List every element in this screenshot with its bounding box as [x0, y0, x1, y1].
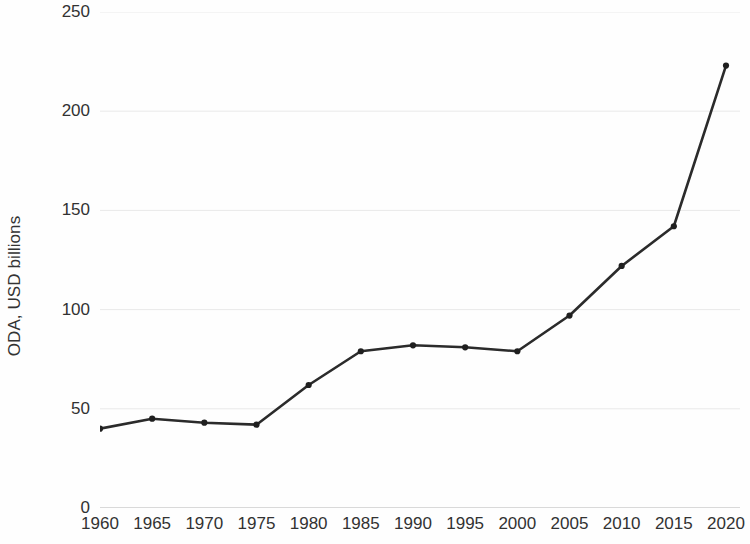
- y-axis-tick-label: 250: [32, 2, 90, 22]
- data-point-marker: [566, 312, 572, 318]
- x-axis-tick-label: 1960: [81, 514, 119, 534]
- series-line-oda: [100, 66, 726, 429]
- y-axis-title: ODA, USD billions: [0, 0, 30, 544]
- data-point-marker: [149, 416, 155, 422]
- series-markers-oda: [100, 62, 729, 431]
- chart-figure: ODA, USD billions 050100150200250 196019…: [0, 0, 750, 544]
- data-point-marker: [253, 422, 259, 428]
- plot-area: [100, 12, 740, 508]
- data-point-marker: [306, 382, 312, 388]
- x-axis-tick-label: 2000: [498, 514, 536, 534]
- x-axis-tick-label: 1980: [290, 514, 328, 534]
- x-axis-tick-label: 2020: [707, 514, 745, 534]
- data-point-marker: [514, 348, 520, 354]
- y-axis-tick-label: 50: [32, 399, 90, 419]
- x-axis-tick-label: 2005: [551, 514, 589, 534]
- y-axis-tick-label: 100: [32, 300, 90, 320]
- x-axis-tick-label: 1995: [446, 514, 484, 534]
- data-point-marker: [201, 420, 207, 426]
- y-axis-tick-label: 200: [32, 101, 90, 121]
- data-point-marker: [410, 342, 416, 348]
- x-axis-tick-label: 1985: [342, 514, 380, 534]
- y-axis-tick-labels: 050100150200250: [32, 0, 90, 544]
- data-point-marker: [100, 426, 103, 432]
- x-axis-tick-label: 1965: [133, 514, 171, 534]
- gridlines: [100, 12, 740, 409]
- y-axis-title-text: ODA, USD billions: [5, 216, 25, 357]
- x-axis-tick-label: 1990: [394, 514, 432, 534]
- x-axis-tick-labels: 1960196519701975198019851990199520002005…: [100, 512, 740, 544]
- data-point-marker: [358, 348, 364, 354]
- data-point-marker: [462, 344, 468, 350]
- x-axis-tick-label: 1975: [238, 514, 276, 534]
- data-point-marker: [723, 62, 729, 68]
- x-axis-tick-label: 1970: [185, 514, 223, 534]
- data-point-marker: [671, 223, 677, 229]
- x-axis-tick-label: 2015: [655, 514, 693, 534]
- line-chart-svg: [100, 12, 740, 508]
- x-axis-tick-label: 2010: [603, 514, 641, 534]
- y-axis-tick-label: 150: [32, 200, 90, 220]
- data-point-marker: [619, 263, 625, 269]
